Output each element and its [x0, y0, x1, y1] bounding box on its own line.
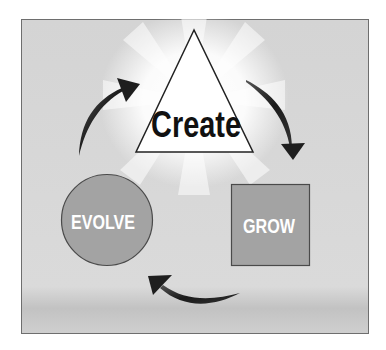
node-grow-label: GROW: [243, 215, 295, 237]
node-evolve-label: EVOLVE: [71, 211, 135, 233]
node-grow: GROW: [232, 185, 310, 266]
node-create-label: Create: [151, 104, 241, 145]
cycle-diagram: Create GROW EVOLVE: [0, 0, 386, 350]
node-evolve: EVOLVE: [62, 175, 153, 266]
